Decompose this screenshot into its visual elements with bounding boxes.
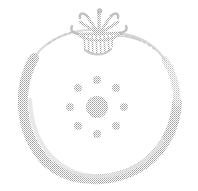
outline-left-arc [23,58,101,179]
rosette-dot-southeast [112,122,120,130]
rosette-core [86,96,108,118]
calyx-hatch-5 [100,36,101,54]
calyx-tip-far-left [71,26,78,34]
sun-rosette-motif [66,76,128,138]
calyx-hatch-4 [96,36,97,54]
calyx-tip-top [98,9,101,13]
rosette-dot-east [120,103,128,111]
calyx-tip-left [80,14,87,18]
outline-bottom-right-arc [101,103,177,179]
outline-right-shoulder [165,60,177,103]
rosette-dot-west [66,103,74,111]
calyx-point-far-right [99,33,120,34]
rosette-dot-southwest [74,122,82,130]
artboard: Fruit outline with star calyx and sun ro… [0,0,198,191]
rosette-dot-north [93,76,101,84]
calyx-tip-right [111,14,118,18]
fruit-calyx-stem [71,9,126,54]
calyx-tip-far-right [120,26,127,33]
rosette-dot-south [93,130,101,138]
outline-top-right-hairline [114,33,165,60]
rosette-dot-northwest [74,84,82,92]
fruit-drawing [0,0,198,191]
rosette-dot-northeast [112,84,120,92]
